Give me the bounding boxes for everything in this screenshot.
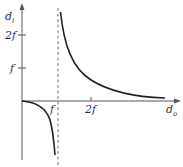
- y-axis-arrow-icon: [20, 3, 25, 10]
- real-image-curve: [61, 12, 166, 98]
- x-axis-label: do: [166, 103, 177, 118]
- y-axis-label: di: [5, 10, 14, 25]
- y-tick-label-f: f: [9, 62, 16, 75]
- lens-graph: di 2f f f 2f do: [0, 0, 183, 167]
- x-axis-arrow-icon: [174, 99, 181, 104]
- x-tick-label-f: f: [49, 103, 56, 116]
- x-tick-label-2f: 2f: [84, 103, 98, 116]
- y-tick-label-2f: 2f: [4, 29, 18, 42]
